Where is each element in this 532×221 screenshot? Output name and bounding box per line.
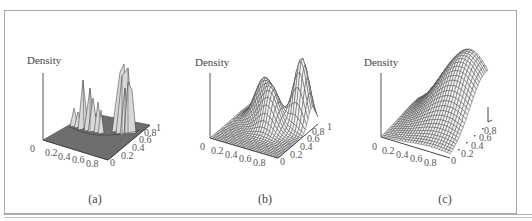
y-tick: 0: [280, 156, 285, 167]
x-tick: 0.6: [239, 153, 252, 164]
x-tick: 0.4: [225, 149, 238, 160]
x-tick: 0.2: [211, 145, 224, 156]
surface-plot-a: 0 0.2 0.4 0.6 0.8 0 0.2 0.4 0.6 0.8 1: [0, 0, 177, 221]
x-tick: 0.8: [86, 158, 99, 169]
y-tick: 0: [110, 157, 115, 168]
x-tick: 0.6: [410, 153, 423, 164]
y-tick: 0: [451, 155, 456, 166]
x-tick: 0: [30, 143, 35, 154]
y-tick: 1: [156, 122, 161, 133]
x-tick: 0.4: [58, 151, 71, 162]
surface-plot-c: 0 0.2 0.4 0.6 0.8 0 0.2 0.4 0.6 0.8: [350, 0, 532, 221]
panel-b: Density 0 0.2 0.4 0.6 0.8 0 0.2 0.4 0.6 …: [170, 0, 347, 221]
x-tick: 0.2: [45, 147, 58, 158]
panel-caption: (b): [245, 192, 285, 207]
x-tick: 0.8: [253, 157, 266, 168]
y-tick: 1: [327, 121, 332, 132]
y-tick: 0.8: [484, 125, 497, 136]
y-tick: 0.8: [144, 127, 157, 138]
panel-caption: (a): [75, 192, 115, 207]
x-tick: 0.2: [382, 145, 395, 156]
x-tick: 0: [372, 141, 377, 152]
panel-a: Density 0 0.2 0.4 0.6: [0, 0, 177, 221]
y-tick: 0.8: [312, 126, 325, 137]
x-tick: 0.8: [424, 157, 437, 168]
x-tick: 0.6: [72, 154, 85, 165]
surface-plot-b: 0 0.2 0.4 0.6 0.8 0 0.2 0.4 0.6 0.8 1: [170, 0, 360, 221]
x-tick: 0.4: [396, 149, 409, 160]
panel-caption: (c): [425, 192, 465, 207]
panel-c: Density 0 0.2 0.4 0.6 0.8 0 0.2 0.4 0.6 …: [350, 0, 527, 221]
x-tick: 0: [200, 141, 205, 152]
